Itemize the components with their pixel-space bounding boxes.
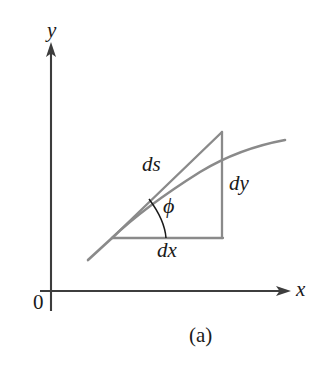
origin-label: 0 [33, 292, 44, 313]
differential-triangle-diagram [0, 0, 323, 369]
y-axis [46, 42, 56, 311]
ds-label: ds [142, 154, 161, 175]
figure-container: y x 0 ds dy dx ϕ (a) [0, 0, 323, 369]
x-axis-label: x [296, 279, 305, 300]
dx-label: dx [157, 240, 177, 261]
figure-caption: (a) [189, 325, 212, 346]
hypotenuse-ds-segment [112, 132, 222, 238]
x-axis [40, 286, 291, 296]
dy-label: dy [229, 173, 249, 194]
function-curve [88, 140, 285, 260]
phi-angle-label: ϕ [163, 195, 174, 217]
y-axis-label: y [47, 20, 56, 41]
